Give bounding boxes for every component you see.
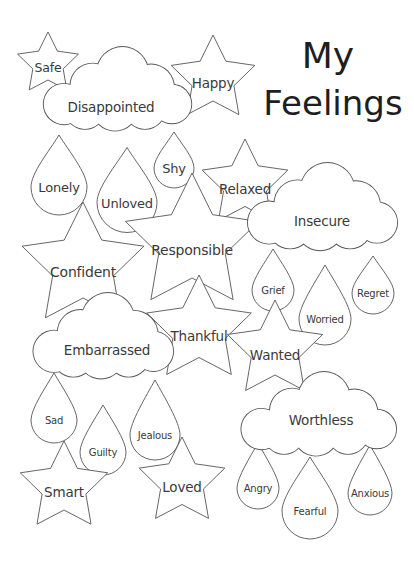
star-label-confident: Confident	[50, 264, 116, 280]
teardrop-anxious	[348, 445, 392, 515]
drop-label-shy: Shy	[162, 161, 186, 176]
star-label-thankful: Thankful	[171, 328, 228, 344]
teardrop-grief	[252, 249, 294, 311]
drop-label-regret: Regret	[357, 288, 389, 299]
drop-label-angry: Angry	[244, 483, 273, 494]
drop-label-jealous: Jealous	[138, 430, 172, 441]
star-label-responsible: Responsible	[151, 242, 233, 258]
star-label-relaxed: Relaxed	[219, 181, 271, 197]
star-label-happy: Happy	[192, 75, 235, 91]
drop-label-guilty: Guilty	[89, 447, 117, 458]
star-label-smart: Smart	[44, 484, 84, 500]
teardrop-angry	[237, 443, 279, 509]
cloud-label-disappointed: Disappointed	[68, 99, 155, 115]
teardrop-regret	[352, 256, 394, 314]
cloud-label-insecure: Insecure	[294, 213, 350, 229]
drop-label-grief: Grief	[261, 285, 284, 296]
page-title-line1: My	[302, 38, 354, 74]
drop-label-anxious: Anxious	[351, 488, 389, 499]
page-title-line2: Feelings	[263, 86, 402, 120]
teardrop-guilty	[80, 405, 126, 475]
feelings-coloring-page: My Feelings LonelyUnlovedShyGriefWorried…	[0, 0, 414, 567]
cloud-label-embarrassed: Embarrassed	[64, 342, 150, 358]
drop-label-sad: Sad	[45, 415, 63, 426]
star-label-loved: Loved	[162, 479, 201, 495]
drop-label-fearful: Fearful	[294, 506, 327, 517]
teardrop-lonely	[31, 135, 87, 215]
teardrop-fearful	[282, 457, 338, 539]
cloud-label-worthless: Worthless	[289, 412, 354, 428]
teardrop-sad	[31, 373, 77, 443]
drop-label-worried: Worried	[306, 314, 343, 325]
star-label-safe: Safe	[35, 60, 62, 75]
drop-label-unloved: Unloved	[101, 195, 153, 210]
drop-label-lonely: Lonely	[38, 180, 79, 195]
star-label-wanted: Wanted	[250, 347, 300, 363]
teardrop-jealous	[130, 380, 180, 460]
